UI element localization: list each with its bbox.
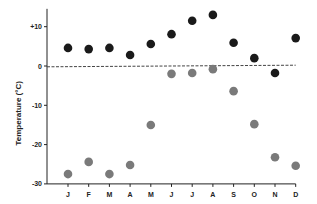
series-grey-point-a-3	[126, 161, 135, 170]
series-grey-point-d-11	[291, 162, 300, 171]
x-tick-label: M	[106, 191, 112, 198]
series-grey-point-n-10	[271, 153, 280, 162]
series-dark-point-a-3	[126, 51, 135, 60]
series-dark-point-m-4	[147, 40, 156, 49]
chart: +100-10-20-30JFMAMJJASONDTemperature (°C…	[0, 0, 317, 204]
y-tick-label: -30	[32, 180, 42, 187]
series-grey-point-m-4	[147, 121, 156, 130]
x-tick-label: S	[231, 191, 236, 198]
x-tick-label: A	[128, 191, 133, 198]
series-dark-point-j-0	[64, 44, 73, 53]
series-grey-point-f-1	[84, 158, 93, 167]
x-tick-label: M	[148, 191, 154, 198]
series-grey-point-j-0	[64, 170, 73, 179]
y-tick-label: -20	[32, 141, 42, 148]
series-dark-point-j-5	[167, 30, 176, 39]
series-grey-point-m-2	[105, 170, 114, 179]
y-tick-label: 0	[38, 63, 42, 70]
y-tick-label: -10	[32, 102, 42, 109]
zero-reference-line	[47, 65, 296, 67]
x-tick-label: A	[210, 191, 215, 198]
axes: +100-10-20-30JFMAMJJASONDTemperature (°C…	[14, 9, 298, 198]
series-dark-point-j-6	[188, 17, 197, 26]
chart-marks	[47, 11, 300, 179]
series-grey-point-s-8	[229, 87, 238, 96]
x-tick-label: O	[252, 191, 258, 198]
x-tick-label: J	[190, 191, 194, 198]
series-dark-point-o-9	[250, 54, 259, 63]
y-tick-label: +10	[30, 23, 42, 30]
series-grey-point-j-6	[188, 69, 197, 78]
y-axis-title: Temperature (°C)	[14, 81, 23, 146]
x-tick-label: N	[272, 191, 277, 198]
series-dark-point-s-8	[229, 39, 238, 48]
x-tick-label: J	[66, 191, 70, 198]
series-dark-point-d-11	[291, 34, 300, 43]
series-dark-point-m-2	[105, 44, 114, 53]
series-grey-point-j-5	[167, 70, 176, 79]
series-grey-point-a-7	[209, 65, 218, 74]
series-dark-point-a-7	[209, 11, 218, 20]
series-dark-point-f-1	[84, 45, 93, 54]
x-tick-label: J	[170, 191, 174, 198]
x-tick-label: D	[293, 191, 298, 198]
series-dark-point-n-10	[271, 69, 280, 78]
series-grey-point-o-9	[250, 120, 259, 129]
x-tick-label: F	[87, 191, 92, 198]
